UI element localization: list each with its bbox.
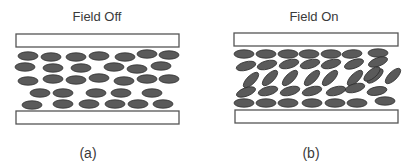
lc-molecule — [142, 89, 162, 97]
lc-molecule — [257, 84, 278, 97]
lc-molecule — [375, 97, 395, 105]
top-plate — [234, 33, 398, 46]
lc-molecule — [137, 75, 157, 83]
lc-molecule — [115, 53, 135, 61]
lc-molecule — [342, 49, 363, 59]
lc-molecule — [325, 84, 346, 97]
lc-molecule — [278, 57, 299, 70]
top-plate — [16, 34, 179, 47]
panel-title: Field Off — [73, 9, 122, 24]
molecule-group — [234, 49, 403, 107]
lc-molecule — [159, 75, 179, 83]
lc-molecule — [234, 99, 254, 107]
lc-molecule — [256, 50, 276, 58]
panel-caption: (a) — [79, 145, 96, 161]
lc-molecule — [89, 74, 109, 82]
lc-molecule — [278, 50, 298, 58]
lc-molecule — [235, 59, 256, 72]
lc-molecule — [114, 77, 134, 85]
lc-molecule — [302, 99, 322, 107]
lc-molecule — [18, 52, 38, 60]
lc-molecule — [368, 49, 388, 57]
lc-molecule — [320, 57, 341, 70]
lc-cell-diagram: Field Off (a) Field On (b) — [0, 0, 412, 166]
lc-molecule — [321, 50, 341, 58]
lc-molecule — [15, 63, 35, 71]
molecule-group — [15, 50, 179, 109]
lc-molecule — [71, 64, 91, 72]
lc-molecule — [279, 84, 300, 97]
lc-molecule — [43, 64, 63, 72]
lc-molecule — [260, 68, 280, 88]
panel-caption: (b) — [302, 145, 319, 161]
lc-molecule — [383, 66, 403, 86]
lc-molecule — [127, 65, 147, 73]
lc-molecule — [111, 89, 131, 97]
lc-molecule — [105, 100, 125, 108]
lc-molecule — [299, 50, 319, 58]
panel-field-on: Field On (b) — [234, 9, 403, 161]
bottom-plate — [16, 111, 179, 124]
lc-molecule — [41, 53, 61, 61]
lc-molecule — [18, 77, 38, 85]
lc-molecule — [153, 100, 173, 108]
lc-molecule — [325, 99, 345, 107]
lc-molecule — [256, 58, 277, 71]
lc-molecule — [30, 89, 50, 97]
lc-molecule — [320, 68, 340, 88]
lc-molecule — [366, 85, 387, 97]
lc-molecule — [159, 51, 179, 59]
lc-molecule — [104, 63, 124, 71]
lc-molecule — [53, 100, 73, 108]
lc-molecule — [86, 89, 106, 97]
lc-molecule — [43, 75, 63, 83]
bottom-plate — [235, 110, 398, 123]
lc-molecule — [302, 68, 322, 88]
lc-molecule — [299, 57, 320, 70]
lc-molecule — [79, 100, 99, 108]
lc-molecule — [347, 99, 367, 107]
lc-molecule — [137, 50, 157, 58]
lc-molecule — [66, 76, 86, 84]
lc-molecule — [280, 68, 300, 88]
lc-molecule — [301, 84, 322, 97]
panel-title: Field On — [289, 9, 338, 24]
lc-molecule — [278, 99, 298, 107]
lc-molecule — [234, 50, 254, 58]
lc-molecule — [89, 52, 109, 60]
lc-molecule — [128, 100, 148, 108]
panel-field-off: Field Off (a) — [15, 9, 179, 161]
lc-molecule — [151, 62, 171, 70]
lc-molecule — [22, 101, 42, 109]
lc-molecule — [343, 57, 365, 72]
lc-molecule — [53, 89, 73, 97]
lc-molecule — [66, 53, 86, 61]
lc-molecule — [256, 99, 276, 107]
